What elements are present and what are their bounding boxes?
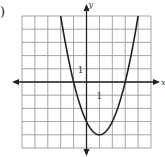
y-axis-down-arrow-icon [84, 149, 90, 156]
x-tick-label: 1 [97, 91, 103, 101]
x-axis-left-arrow-icon [12, 79, 19, 85]
parabola-graph: yx11 [0, 0, 165, 157]
y-axis-label: y [88, 0, 94, 9]
x-axis-label: x [161, 78, 165, 87]
y-tick-label: 1 [78, 65, 84, 75]
x-axis-right-arrow-icon [153, 79, 160, 85]
